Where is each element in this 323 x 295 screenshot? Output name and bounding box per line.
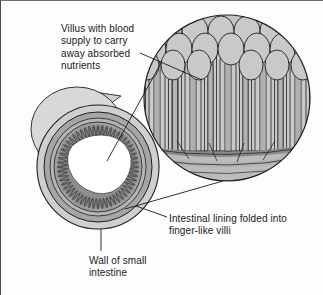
villus-core — [225, 60, 231, 151]
epithelial-cell-lobe — [286, 16, 312, 46]
villus-blood-supply-label: Villus with blood supply to carry away a… — [61, 23, 134, 73]
intestine-diagram-svg — [1, 1, 323, 295]
intestinal-crypt — [208, 64, 213, 151]
epithelial-cell-lobe — [265, 50, 289, 80]
intestinal-lining-label: Intestinal lining folded into finger-lik… — [169, 213, 287, 238]
epithelial-cell-lobe — [239, 50, 263, 80]
magnified-villi-circle — [135, 15, 321, 201]
wall-of-small-intestine-label: Wall of small intestine — [89, 255, 147, 280]
epithelial-cell-lobe — [161, 50, 185, 80]
diagram-root: Villus with blood supply to carry away a… — [0, 0, 323, 295]
